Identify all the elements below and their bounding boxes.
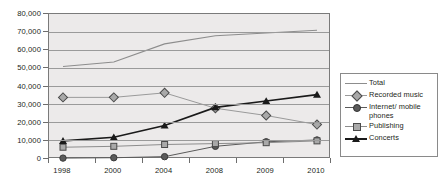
triangle-marker-icon bbox=[345, 133, 367, 144]
chart-container: 010,00020,00030,00040,00050,00060,00070,… bbox=[0, 0, 446, 189]
legend-item[interactable]: Concerts bbox=[345, 133, 434, 144]
x-axis-tick-label: 2000 bbox=[104, 166, 121, 175]
circle-marker-icon bbox=[353, 104, 361, 112]
x-axis-tick-label: 2010 bbox=[307, 166, 324, 175]
grid-line bbox=[49, 122, 329, 123]
chart-legend: TotalRecorded musicInternet/ mobile phon… bbox=[340, 73, 438, 157]
y-axis-tick-label: 20,000 bbox=[17, 117, 41, 126]
square-marker-icon bbox=[345, 121, 367, 132]
diamond-marker-icon bbox=[262, 111, 271, 120]
legend-item-label: Internet/ mobile phones bbox=[367, 102, 434, 120]
x-axis-tick-mark bbox=[48, 158, 49, 163]
square-marker-icon bbox=[212, 141, 218, 147]
legend-item[interactable]: Publishing bbox=[345, 121, 434, 132]
grid-line bbox=[49, 50, 329, 51]
diamond-marker-icon bbox=[351, 90, 362, 101]
x-axis-tick-mark bbox=[142, 158, 143, 163]
y-axis: 010,00020,00030,00040,00050,00060,00070,… bbox=[0, 0, 48, 189]
diamond-marker-icon bbox=[345, 90, 367, 101]
y-axis-tick-label: 30,000 bbox=[17, 99, 41, 108]
series-total bbox=[63, 30, 317, 66]
diamond-marker-icon bbox=[58, 93, 67, 102]
square-marker-icon bbox=[353, 123, 361, 131]
series-line bbox=[63, 93, 317, 125]
y-axis-tick-label: 50,000 bbox=[17, 63, 41, 72]
legend-item-label: Publishing bbox=[367, 121, 404, 130]
series-line bbox=[63, 30, 317, 66]
line-swatch bbox=[345, 78, 367, 89]
legend-item[interactable]: Recorded music bbox=[345, 90, 434, 101]
grid-line bbox=[49, 104, 329, 105]
square-marker-icon bbox=[60, 144, 66, 150]
triangle-marker-icon bbox=[352, 135, 360, 142]
square-marker-icon bbox=[162, 142, 168, 148]
grid-line bbox=[49, 140, 329, 141]
y-axis-tick-label: 40,000 bbox=[17, 81, 41, 90]
square-marker-icon bbox=[111, 143, 117, 149]
grid-line bbox=[49, 32, 329, 33]
y-axis-tick-label: 80,000 bbox=[17, 9, 41, 18]
diamond-marker-icon bbox=[109, 93, 118, 102]
x-axis-tick-label: 2004 bbox=[155, 166, 172, 175]
legend-item[interactable]: Internet/ mobile phones bbox=[345, 102, 434, 120]
y-axis-tick-label: 10,000 bbox=[17, 135, 41, 144]
circle-marker-icon bbox=[345, 102, 367, 113]
plot-area bbox=[48, 13, 330, 158]
x-axis-tick-mark bbox=[283, 158, 284, 163]
series-line bbox=[63, 141, 317, 147]
y-axis-tick-label: 60,000 bbox=[17, 45, 41, 54]
series-concerts bbox=[59, 91, 321, 144]
x-axis-tick-mark bbox=[236, 158, 237, 163]
y-axis-tick-label: 70,000 bbox=[17, 27, 41, 36]
x-axis-tick-mark bbox=[189, 158, 190, 163]
legend-item[interactable]: Total bbox=[345, 78, 434, 89]
x-axis-tick-label: 2008 bbox=[206, 166, 223, 175]
grid-line bbox=[49, 86, 329, 87]
grid-line bbox=[49, 68, 329, 69]
legend-item-label: Concerts bbox=[367, 133, 399, 142]
x-axis-tick-label: 2009 bbox=[257, 166, 274, 175]
x-axis-tick-label: 1998 bbox=[53, 166, 70, 175]
x-axis: 199820002004200820092010 bbox=[48, 158, 330, 189]
legend-item-label: Total bbox=[367, 78, 385, 87]
y-axis-tick-label: 0 bbox=[37, 154, 41, 163]
x-axis-tick-mark bbox=[330, 158, 331, 163]
x-axis-tick-mark bbox=[95, 158, 96, 163]
diamond-marker-icon bbox=[160, 88, 169, 97]
legend-item-label: Recorded music bbox=[367, 90, 423, 99]
